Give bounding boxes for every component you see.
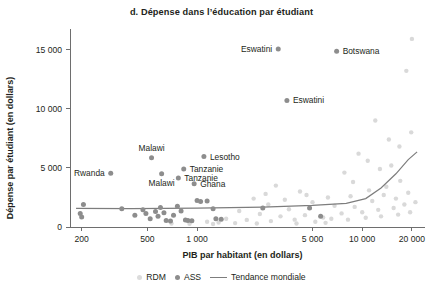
data-point xyxy=(318,214,323,219)
data-point xyxy=(294,221,298,225)
data-point xyxy=(255,221,259,225)
data-point xyxy=(278,214,282,218)
data-point xyxy=(161,210,166,215)
data-point xyxy=(339,211,343,215)
data-point xyxy=(356,151,360,155)
data-point xyxy=(81,202,86,207)
data-point xyxy=(398,179,402,183)
data-point xyxy=(164,218,169,223)
chart-legend: RDM ASS Tendance mondiale xyxy=(0,272,443,282)
data-point xyxy=(310,200,314,204)
data-point xyxy=(143,211,148,216)
data-point xyxy=(373,118,377,122)
data-point xyxy=(370,199,374,203)
svg-text:5 000: 5 000 xyxy=(302,234,324,244)
data-point xyxy=(382,193,386,197)
data-point xyxy=(366,159,370,163)
data-point xyxy=(402,202,406,206)
data-point xyxy=(303,213,307,217)
data-point xyxy=(346,217,350,221)
data-point xyxy=(409,130,413,134)
data-point xyxy=(119,206,124,211)
data-point xyxy=(148,216,153,221)
data-point xyxy=(334,49,339,54)
data-point xyxy=(198,199,203,204)
data-point xyxy=(79,214,84,219)
legend-item-rdm[interactable]: RDM xyxy=(137,272,166,282)
svg-text:5 000: 5 000 xyxy=(40,163,62,173)
point-label: Eswatini xyxy=(293,95,324,105)
data-point xyxy=(276,46,281,51)
data-point xyxy=(408,210,412,214)
data-point xyxy=(224,217,228,221)
data-point xyxy=(376,208,380,212)
data-point xyxy=(313,219,317,223)
data-point xyxy=(269,219,273,223)
data-point xyxy=(378,167,382,171)
point-label: Malawi xyxy=(149,178,175,188)
data-point xyxy=(201,154,206,159)
data-point xyxy=(323,221,327,225)
data-point xyxy=(179,209,184,214)
svg-text:200: 200 xyxy=(74,234,89,244)
legend-label-rdm: RDM xyxy=(146,272,166,282)
data-point xyxy=(307,206,312,211)
data-point xyxy=(379,214,383,218)
data-point xyxy=(132,213,137,218)
data-point xyxy=(156,214,161,219)
data-point xyxy=(396,212,400,216)
data-point xyxy=(233,221,237,225)
axes-group: 05 00010 00015 0002005001 0005 00010 000… xyxy=(36,29,426,244)
data-point xyxy=(171,213,176,218)
svg-text:10 000: 10 000 xyxy=(36,104,63,114)
point-label: Lesotho xyxy=(210,152,240,162)
data-point xyxy=(342,170,346,174)
data-point xyxy=(213,216,218,221)
data-point xyxy=(205,219,209,223)
data-point xyxy=(205,198,210,203)
data-point xyxy=(245,218,249,222)
data-point xyxy=(258,212,262,216)
svg-text:0: 0 xyxy=(57,222,62,232)
data-point xyxy=(298,189,302,193)
svg-text:1 000: 1 000 xyxy=(186,234,208,244)
data-point xyxy=(158,205,163,210)
legend-label-trend: Tendance mondiale xyxy=(231,272,306,282)
data-point xyxy=(211,222,215,226)
data-point xyxy=(168,219,173,224)
legend-item-trend[interactable]: Tendance mondiale xyxy=(210,272,306,282)
legend-marker-rdm-icon xyxy=(137,275,142,280)
data-point xyxy=(292,217,296,221)
data-point xyxy=(211,206,216,211)
data-point xyxy=(404,69,408,73)
data-point xyxy=(384,185,388,189)
rdm-point-group xyxy=(169,37,417,227)
data-point xyxy=(149,155,154,160)
data-point xyxy=(367,188,371,192)
data-point xyxy=(329,217,333,221)
point-label: Ghana xyxy=(200,179,225,189)
data-point xyxy=(260,206,265,211)
legend-marker-ass-icon xyxy=(175,275,180,280)
point-label: Botswana xyxy=(343,46,380,56)
data-point xyxy=(304,193,308,197)
data-point xyxy=(108,171,113,176)
point-label: Rwanda xyxy=(74,168,105,178)
data-point xyxy=(266,202,270,206)
ass-point-group xyxy=(78,46,339,223)
legend-item-ass[interactable]: ASS xyxy=(175,272,201,282)
data-point xyxy=(219,217,224,222)
data-point xyxy=(263,192,267,196)
data-point xyxy=(360,210,364,214)
legend-label-ass: ASS xyxy=(184,272,201,282)
data-point xyxy=(237,209,241,213)
data-point xyxy=(394,196,398,200)
data-point xyxy=(351,180,355,184)
data-point xyxy=(181,167,186,172)
data-point xyxy=(397,144,401,148)
data-point xyxy=(251,196,255,200)
svg-text:10 000: 10 000 xyxy=(349,234,376,244)
data-point xyxy=(389,163,393,167)
data-point xyxy=(287,207,291,211)
data-point xyxy=(348,194,352,198)
